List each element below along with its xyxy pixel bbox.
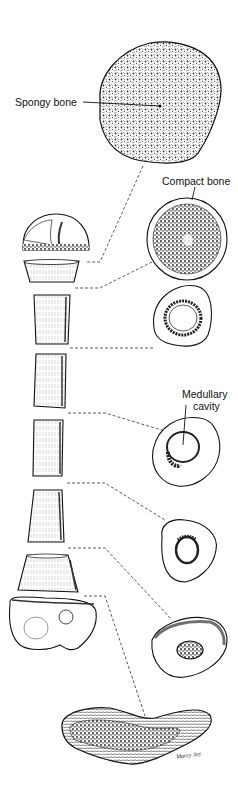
label-medullary-cavity-line2: cavity [193,400,220,412]
cross-section-head [100,42,221,163]
cross-section-shaft-2 [153,417,220,486]
label-spongy-bone: Spongy bone [15,96,77,108]
neck-slice [24,260,79,283]
dashed-connector-4 [68,413,165,431]
label-compact-bone: Compact bone [162,175,230,187]
cross-section-neck [147,198,227,280]
dashed-connector-2 [74,262,152,288]
cross-section-shaft-1 [154,285,212,346]
dashed-connector-1 [85,166,143,262]
proximal-head [23,214,89,250]
label-medullary-cavity-line1: Medullary [182,388,228,400]
distal-condyle [9,597,96,650]
shaft-slice-1 [34,295,70,344]
shaft-slice-2 [34,354,66,408]
cross-section-distal [152,617,227,677]
shaft-slice-3 [33,420,63,476]
distal-slice [18,554,78,592]
dashed-connector-5 [67,483,165,520]
cross-section-shaft-3 [162,520,217,582]
shaft-slice-4 [28,490,64,542]
